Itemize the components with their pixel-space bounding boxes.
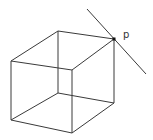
edge-top-left [11, 31, 58, 61]
edge-bottom-front [11, 120, 72, 133]
cube [11, 31, 114, 133]
cube-diagram: p [0, 0, 153, 140]
edge-bottom-right [72, 103, 114, 133]
point-p-marker [113, 38, 116, 41]
tangent-line [87, 9, 146, 74]
edge-bottom-left [11, 93, 58, 120]
edge-top-back [58, 31, 114, 39]
edge-top-right [72, 39, 114, 70]
edge-bottom-back [58, 93, 114, 103]
edge-top-front [11, 61, 72, 70]
point-p-label: p [123, 29, 129, 40]
